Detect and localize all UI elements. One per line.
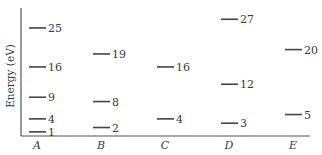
energy-level-label: 3 [240,117,247,130]
energy-level-chart: Energy (eV) 1491625281941631227520 ABCDE [0,0,322,155]
energy-levels: 1491625281941631227520 [29,13,318,139]
energy-level-label: 5 [304,109,311,122]
category-labels: ABCDE [32,139,297,152]
energy-level-label: 16 [176,61,190,74]
energy-level-label: 20 [304,44,318,57]
energy-level-label: 27 [240,13,254,26]
category-label-b: B [96,139,105,152]
category-label-d: D [224,139,234,152]
energy-level-label: 2 [112,122,119,135]
y-axis-label: Energy (eV) [4,44,16,108]
energy-level-label: 1 [48,126,55,139]
energy-level-label: 25 [48,22,62,35]
energy-level-label: 4 [48,113,55,126]
energy-level-label: 19 [112,48,126,61]
energy-level-label: 8 [112,96,119,109]
chart-svg: Energy (eV) 1491625281941631227520 ABCDE [0,0,322,155]
energy-level-label: 4 [176,113,183,126]
energy-level-label: 16 [48,61,62,74]
category-label-e: E [288,139,297,152]
energy-level-label: 12 [240,78,254,91]
category-label-c: C [161,139,170,152]
category-label-a: A [32,139,41,152]
energy-level-label: 9 [48,91,55,104]
